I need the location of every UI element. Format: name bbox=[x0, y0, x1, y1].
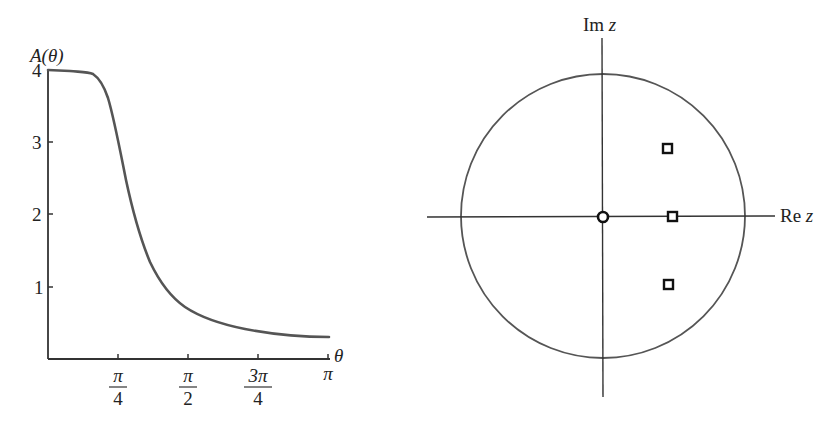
y-tick-label: 2 bbox=[32, 204, 42, 225]
x-tick-label-pi: π bbox=[323, 363, 333, 384]
pole-marker-lower bbox=[664, 280, 673, 289]
svg-text:3π: 3π bbox=[247, 365, 268, 386]
real-axis-label: Re z bbox=[780, 205, 814, 226]
pole-zero-plot: Im z Re z bbox=[427, 14, 814, 397]
y-axis-label: A(θ) bbox=[28, 45, 64, 67]
svg-text:4: 4 bbox=[113, 388, 123, 409]
svg-text:4: 4 bbox=[253, 388, 263, 409]
svg-text:π: π bbox=[183, 365, 193, 386]
svg-text:2: 2 bbox=[183, 388, 193, 409]
pole-marker-upper bbox=[663, 144, 672, 153]
amplitude-curve bbox=[48, 70, 329, 337]
y-tick-label: 3 bbox=[32, 132, 42, 153]
svg-text:π: π bbox=[113, 365, 123, 386]
amplitude-plot: 4 3 2 1 A(θ) π 4 π 2 3π 4 π θ bbox=[28, 45, 343, 409]
y-tick-label: 1 bbox=[34, 277, 44, 298]
imag-axis-label: Im z bbox=[583, 14, 617, 35]
zero-marker bbox=[598, 212, 608, 222]
x-tick-label-pi-2: π 2 bbox=[179, 365, 197, 409]
figure: 4 3 2 1 A(θ) π 4 π 2 3π 4 π θ Im z bbox=[0, 0, 833, 422]
x-tick-label-3pi-4: 3π 4 bbox=[244, 365, 272, 409]
pole-marker-real bbox=[668, 212, 677, 221]
x-axis-label: θ bbox=[334, 345, 343, 366]
x-tick-label-pi-4: π 4 bbox=[109, 365, 127, 409]
